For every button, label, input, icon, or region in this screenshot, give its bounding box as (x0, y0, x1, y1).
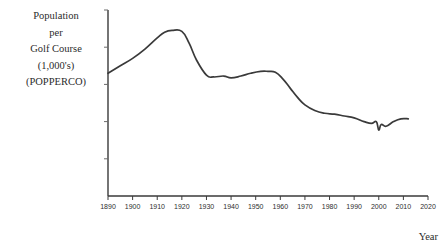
x-axis-tick-label: 2000 (371, 203, 387, 210)
chart-figure: Population per Golf Course (1,000's) (PO… (0, 0, 448, 246)
x-axis-tick-label: 1890 (100, 203, 116, 210)
data-series-group (108, 30, 408, 130)
x-axis-tick-label: 1900 (125, 203, 141, 210)
x-axis-tick-label: 1970 (297, 203, 313, 210)
x-axis-tick-label: 1910 (149, 203, 165, 210)
x-axis-tick-label: 2010 (396, 203, 412, 210)
data-series-line (108, 30, 408, 130)
x-axis-title: Year (419, 231, 438, 242)
x-axis-tick-label: 1980 (322, 203, 338, 210)
x-axis-tick-label: 1960 (273, 203, 289, 210)
x-axis-tick-label: 1940 (223, 203, 239, 210)
x-axis-tick-label: 1990 (346, 203, 362, 210)
x-axis-tick-label: 2020 (420, 203, 436, 210)
x-axis-tick-label: 1930 (199, 203, 215, 210)
x-axis-tick-label: 1950 (248, 203, 264, 210)
x-axis-tick-label: 1920 (174, 203, 190, 210)
